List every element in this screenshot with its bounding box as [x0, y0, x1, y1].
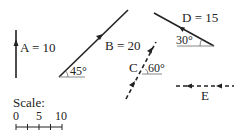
scale-tick-10: 10 — [55, 109, 67, 123]
arrow-left-icon — [216, 84, 222, 89]
vector-b-angle: 45° — [70, 64, 87, 78]
vector-c-angle: 60° — [148, 61, 165, 75]
arrow-left-icon — [186, 84, 192, 89]
arrow-up-icon — [14, 39, 19, 46]
vector-diagram: A = 10 45° B = 20 D = 15 30° C 60° E S — [0, 0, 246, 140]
vector-b-label: B = 20 — [105, 38, 141, 53]
vector-e-label: E — [201, 88, 209, 103]
arrow-up-right-icon — [129, 81, 135, 88]
vector-d-label: D = 15 — [182, 10, 218, 25]
scale-tick-5: 5 — [36, 109, 42, 123]
vector-d-angle: 30° — [176, 33, 193, 47]
scale-label: Scale: — [13, 95, 45, 110]
scale-tick-0: 0 — [13, 109, 19, 123]
arrow-up-right-icon — [147, 47, 153, 54]
scale-bar: Scale: 0 5 10 — [13, 95, 67, 130]
vector-c-label: C — [129, 60, 138, 75]
vector-a: A = 10 — [14, 30, 56, 78]
vector-e: E — [176, 84, 234, 104]
vector-d: D = 15 30° — [154, 10, 218, 47]
vector-a-label: A = 10 — [20, 40, 56, 55]
